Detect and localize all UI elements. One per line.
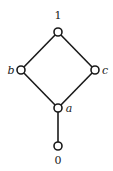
edge-1-c [58, 32, 95, 70]
node-c [91, 66, 99, 74]
node-bottom [54, 142, 62, 150]
edge-b-a [21, 70, 58, 108]
edge-1-b [21, 32, 58, 70]
node-top [54, 28, 62, 36]
node-a [54, 104, 62, 112]
edges [21, 32, 95, 146]
label-bottom: 0 [55, 154, 62, 167]
edge-c-a [58, 70, 95, 108]
label-a: a [66, 102, 73, 115]
hasse-diagram: 1 b c a 0 [0, 0, 113, 171]
label-top: 1 [55, 9, 62, 22]
node-b [17, 66, 25, 74]
label-b: b [7, 64, 14, 77]
label-c: c [102, 64, 108, 77]
